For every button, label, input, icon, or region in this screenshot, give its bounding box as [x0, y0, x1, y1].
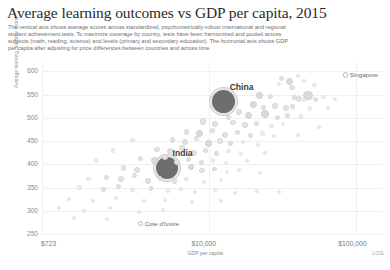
data-point[interactable]	[219, 199, 223, 203]
data-point-cote-d-ivoire[interactable]	[138, 221, 143, 226]
data-point[interactable]	[193, 190, 197, 194]
data-point[interactable]	[299, 114, 303, 118]
data-point[interactable]	[151, 157, 158, 164]
data-point[interactable]	[138, 156, 143, 161]
data-point[interactable]	[104, 175, 109, 180]
data-point[interactable]	[108, 206, 112, 210]
data-point[interactable]	[296, 133, 300, 137]
x-axis-scale-note[interactable]: LOG	[372, 250, 384, 256]
data-point[interactable]	[199, 168, 204, 173]
data-point[interactable]	[313, 97, 318, 102]
data-point[interactable]	[302, 79, 306, 83]
data-point[interactable]	[211, 158, 215, 162]
data-point[interactable]	[230, 120, 235, 125]
data-point[interactable]	[145, 178, 151, 184]
data-point[interactable]	[94, 158, 98, 162]
data-point[interactable]	[239, 152, 243, 156]
data-point[interactable]	[217, 138, 223, 144]
data-point[interactable]	[200, 118, 206, 124]
data-point[interactable]	[290, 104, 295, 109]
data-point[interactable]	[179, 187, 183, 191]
data-point[interactable]	[166, 189, 170, 193]
data-point[interactable]	[222, 132, 228, 138]
data-point[interactable]	[105, 217, 109, 221]
data-point[interactable]	[132, 173, 137, 178]
data-point[interactable]	[269, 124, 273, 128]
data-point[interactable]	[260, 131, 264, 135]
data-point[interactable]	[245, 112, 252, 119]
data-point[interactable]	[277, 190, 281, 194]
data-point-singapore[interactable]	[343, 72, 348, 77]
data-point[interactable]	[214, 151, 219, 156]
data-point[interactable]	[236, 109, 242, 115]
data-point[interactable]	[203, 148, 208, 153]
data-point[interactable]	[219, 178, 223, 182]
data-point[interactable]	[91, 199, 95, 203]
data-point[interactable]	[307, 106, 311, 110]
data-point[interactable]	[237, 168, 241, 172]
data-point[interactable]	[255, 189, 259, 193]
data-point[interactable]	[188, 164, 194, 170]
data-point[interactable]	[77, 185, 81, 189]
data-point[interactable]	[72, 216, 76, 220]
data-point[interactable]	[184, 129, 190, 135]
data-point[interactable]	[241, 140, 245, 144]
data-point[interactable]	[118, 176, 124, 182]
data-point[interactable]	[154, 147, 160, 153]
data-point[interactable]	[170, 137, 175, 142]
data-point[interactable]	[312, 83, 316, 87]
data-point[interactable]	[256, 143, 260, 147]
data-point[interactable]	[289, 85, 294, 90]
data-point[interactable]	[242, 122, 248, 128]
data-point[interactable]	[225, 170, 229, 174]
data-point[interactable]	[86, 177, 90, 181]
data-point[interactable]	[134, 167, 140, 173]
data-point[interactable]	[258, 171, 262, 175]
data-point[interactable]	[283, 105, 289, 111]
data-point[interactable]	[285, 113, 290, 118]
data-point[interactable]	[235, 130, 240, 135]
data-point[interactable]	[82, 209, 86, 213]
data-point[interactable]	[263, 151, 267, 155]
data-point[interactable]	[130, 188, 134, 192]
data-point[interactable]	[111, 148, 115, 152]
data-point-china[interactable]	[210, 88, 237, 115]
data-point[interactable]	[121, 165, 126, 170]
data-point[interactable]	[213, 188, 217, 192]
data-point[interactable]	[212, 121, 218, 127]
data-point[interactable]	[302, 98, 306, 102]
data-point[interactable]	[317, 125, 321, 129]
data-point[interactable]	[277, 82, 281, 86]
data-point[interactable]	[233, 191, 237, 195]
data-point[interactable]	[142, 199, 146, 203]
data-point[interactable]	[333, 97, 337, 101]
data-point[interactable]	[210, 128, 215, 133]
data-point[interactable]	[226, 149, 230, 153]
data-point[interactable]	[158, 176, 163, 181]
data-point[interactable]	[202, 180, 206, 184]
data-point[interactable]	[268, 94, 273, 99]
data-point[interactable]	[326, 106, 330, 110]
data-point[interactable]	[321, 95, 325, 99]
data-point[interactable]	[248, 133, 254, 139]
data-point[interactable]	[190, 200, 194, 204]
data-point[interactable]	[184, 177, 188, 181]
data-point[interactable]	[296, 74, 300, 78]
data-point[interactable]	[254, 121, 259, 126]
data-point[interactable]	[275, 115, 280, 120]
data-point[interactable]	[212, 167, 217, 172]
data-point[interactable]	[182, 139, 188, 145]
data-point[interactable]	[149, 186, 154, 191]
data-point[interactable]	[101, 187, 106, 192]
data-point[interactable]	[256, 92, 262, 98]
data-point[interactable]	[272, 134, 276, 138]
data-point[interactable]	[245, 159, 249, 163]
data-point[interactable]	[174, 159, 180, 165]
data-point[interactable]	[67, 197, 71, 201]
data-point[interactable]	[250, 101, 257, 108]
data-point[interactable]	[161, 208, 165, 212]
data-point[interactable]	[281, 122, 285, 126]
data-point[interactable]	[199, 160, 204, 165]
data-point[interactable]	[172, 178, 177, 183]
data-point[interactable]	[279, 76, 284, 81]
